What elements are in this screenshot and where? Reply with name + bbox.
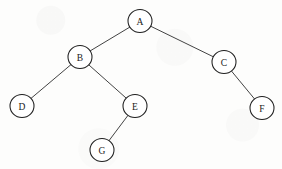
tree-node-g[interactable]: G (90, 139, 114, 162)
node-label-e: E (132, 102, 138, 112)
tree-node-c[interactable]: C (212, 51, 236, 74)
tree-diagram-svg: Binary tree diagram ABCDEFG (0, 0, 282, 169)
tree-node-e[interactable]: E (123, 95, 147, 118)
tree-node-d[interactable]: D (10, 95, 34, 118)
tree-edge-b-e (89, 65, 126, 98)
tree-diagram-canvas: Binary tree diagram ABCDEFG (0, 0, 282, 169)
node-label-g: G (99, 146, 106, 156)
node-label-f: F (259, 104, 264, 114)
tree-edge-a-c (151, 26, 214, 57)
tree-node-a[interactable]: A (128, 10, 152, 33)
tree-edge-c-f (231, 71, 254, 99)
tree-edge-e-g (109, 115, 128, 140)
node-label-b: B (77, 53, 83, 63)
node-label-d: D (19, 102, 26, 112)
nodes-layer: ABCDEFG (10, 10, 274, 162)
edges-layer (31, 26, 255, 140)
tree-edge-a-b (90, 27, 130, 51)
node-label-c: C (221, 58, 227, 68)
tree-node-b[interactable]: B (68, 46, 92, 69)
tree-edge-b-d (31, 65, 71, 99)
node-label-a: A (137, 17, 144, 27)
tree-node-f[interactable]: F (250, 97, 274, 120)
